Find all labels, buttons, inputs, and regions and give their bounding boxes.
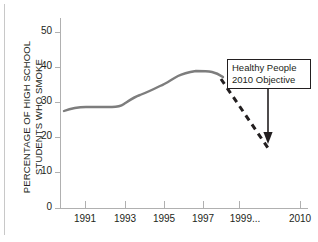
- series-hp2010-projection: [221, 79, 268, 148]
- series-actual-smoking-rate: [64, 71, 223, 111]
- callout-line-1: Healthy People: [232, 62, 307, 74]
- callout-arrow: [263, 87, 272, 144]
- chart-figure: PERCENTAGE OF HIGH SCHOOL STUDENTS WHO S…: [0, 0, 318, 242]
- callout-line-2: 2010 Objective: [232, 74, 307, 86]
- healthy-people-callout: Healthy People 2010 Objective: [227, 59, 311, 89]
- plot-area: [0, 0, 318, 242]
